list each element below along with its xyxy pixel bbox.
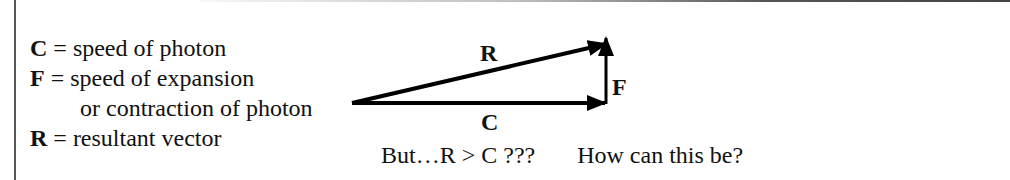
vector-f-label: F	[612, 74, 627, 101]
vector-r-label: R	[480, 40, 497, 67]
question-text: But…R > C ???	[381, 142, 535, 168]
follow-up-text: How can this be?	[577, 142, 743, 168]
vector-r-arrow	[352, 44, 606, 103]
caption: But…R > C ??? How can this be?	[381, 142, 743, 169]
vector-c-label: C	[481, 109, 498, 136]
